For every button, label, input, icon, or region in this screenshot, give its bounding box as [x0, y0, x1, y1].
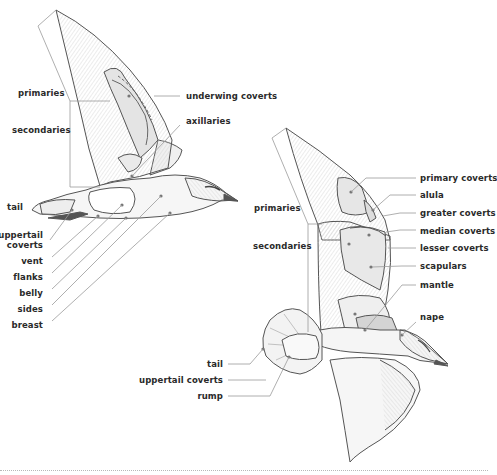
label-secondaries-underside: secondaries — [12, 125, 71, 135]
label-lesser-coverts: lesser coverts — [420, 243, 489, 253]
label-sides: sides — [18, 304, 43, 314]
underside-bird — [32, 10, 238, 220]
label-underwing-coverts: underwing coverts — [186, 91, 277, 101]
label-uppertail-coverts-upperside: uppertail coverts — [139, 375, 223, 385]
bottom-divider — [0, 470, 488, 471]
label-primary-coverts: primary coverts — [420, 173, 497, 183]
label-secondaries-upperside: secondaries — [253, 241, 312, 251]
label-greater-coverts: greater coverts — [420, 208, 496, 218]
label-breast: breast — [12, 320, 44, 330]
label-uppertail-coverts-underside-line1: uppertail — [0, 230, 43, 240]
label-median-coverts: median coverts — [420, 226, 495, 236]
label-nape: nape — [420, 312, 444, 322]
label-uppertail-coverts-underside-line2: coverts — [7, 240, 43, 250]
label-alula: alula — [420, 190, 444, 200]
label-rump: rump — [197, 391, 223, 401]
label-vent: vent — [21, 256, 43, 266]
label-scapulars: scapulars — [420, 261, 467, 271]
label-mantle: mantle — [420, 280, 454, 290]
label-belly: belly — [19, 288, 43, 298]
label-tail-underside: tail — [7, 202, 23, 212]
label-flanks: flanks — [13, 272, 43, 282]
label-axillaries: axillaries — [186, 116, 231, 126]
label-tail-upperside: tail — [207, 359, 223, 369]
label-primaries-underside: primaries — [18, 88, 65, 98]
label-primaries-upperside: primaries — [254, 203, 301, 213]
